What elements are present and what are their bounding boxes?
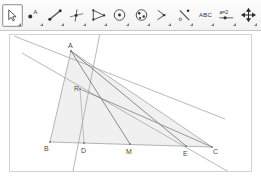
arrow-pointer-icon bbox=[5, 8, 20, 23]
geometry-app-window: A bbox=[0, 0, 261, 176]
submenu-corner-icon[interactable] bbox=[168, 23, 171, 26]
text-tool[interactable]: ABC bbox=[195, 4, 216, 27]
toolbar: A bbox=[0, 0, 261, 31]
point-D-dot[interactable] bbox=[83, 142, 85, 144]
submenu-corner-icon[interactable] bbox=[126, 23, 129, 26]
svg-text:a=2: a=2 bbox=[220, 9, 229, 15]
line-tool[interactable] bbox=[45, 4, 66, 27]
point-label-B[interactable]: B bbox=[44, 145, 49, 152]
pan-tool[interactable] bbox=[238, 4, 259, 27]
point-tool[interactable]: A bbox=[23, 4, 44, 27]
submenu-corner-icon[interactable] bbox=[254, 23, 257, 26]
ellipse-icon bbox=[133, 7, 150, 23]
point-label-R[interactable]: R bbox=[74, 85, 79, 92]
point-E-dot[interactable] bbox=[185, 145, 187, 147]
point-icon: A bbox=[26, 7, 43, 23]
graphics-view[interactable]: A R B D M E C bbox=[0, 31, 261, 176]
point-label-A[interactable]: A bbox=[68, 42, 73, 49]
submenu-corner-icon[interactable] bbox=[104, 23, 107, 26]
point-label-E[interactable]: E bbox=[183, 150, 188, 157]
submenu-corner-icon[interactable] bbox=[18, 23, 21, 26]
svg-text:A: A bbox=[33, 9, 37, 15]
submenu-corner-icon[interactable] bbox=[190, 23, 193, 26]
submenu-corner-icon[interactable] bbox=[147, 23, 150, 26]
reflect-line-icon bbox=[176, 7, 193, 23]
circle-center-icon bbox=[111, 7, 128, 23]
point-label-C[interactable]: C bbox=[213, 148, 218, 155]
perpendicular-tool[interactable] bbox=[66, 4, 87, 27]
point-label-M[interactable]: M bbox=[126, 148, 132, 155]
polygon-tool[interactable] bbox=[88, 4, 109, 27]
perpendicular-line-icon bbox=[68, 7, 85, 24]
reflect-tool[interactable] bbox=[173, 4, 194, 27]
angle-icon bbox=[154, 7, 171, 23]
submenu-corner-icon[interactable] bbox=[83, 23, 86, 26]
angle-tool[interactable] bbox=[152, 4, 173, 27]
text-tool-label: ABC bbox=[199, 12, 212, 18]
polygon-icon bbox=[90, 7, 107, 23]
circle-tool[interactable] bbox=[109, 4, 130, 27]
point-label-D[interactable]: D bbox=[81, 147, 86, 154]
segment-icon bbox=[47, 7, 64, 23]
slider-tool[interactable]: a=2 bbox=[216, 4, 237, 27]
point-B-dot[interactable] bbox=[49, 141, 51, 143]
slider-ab2-icon: a=2 bbox=[217, 7, 236, 23]
point-M-dot[interactable] bbox=[129, 143, 131, 145]
submenu-corner-icon[interactable] bbox=[233, 23, 236, 26]
point-R-dot[interactable] bbox=[79, 88, 81, 90]
conic-tool[interactable] bbox=[131, 4, 152, 27]
point-A-dot[interactable] bbox=[70, 50, 72, 52]
submenu-corner-icon[interactable] bbox=[211, 23, 214, 26]
submenu-corner-icon[interactable] bbox=[61, 23, 64, 26]
submenu-corner-icon[interactable] bbox=[40, 23, 43, 26]
move-tool[interactable] bbox=[2, 4, 23, 27]
triangle-fill-BAC bbox=[50, 51, 212, 147]
move-graphics-icon bbox=[240, 7, 257, 23]
